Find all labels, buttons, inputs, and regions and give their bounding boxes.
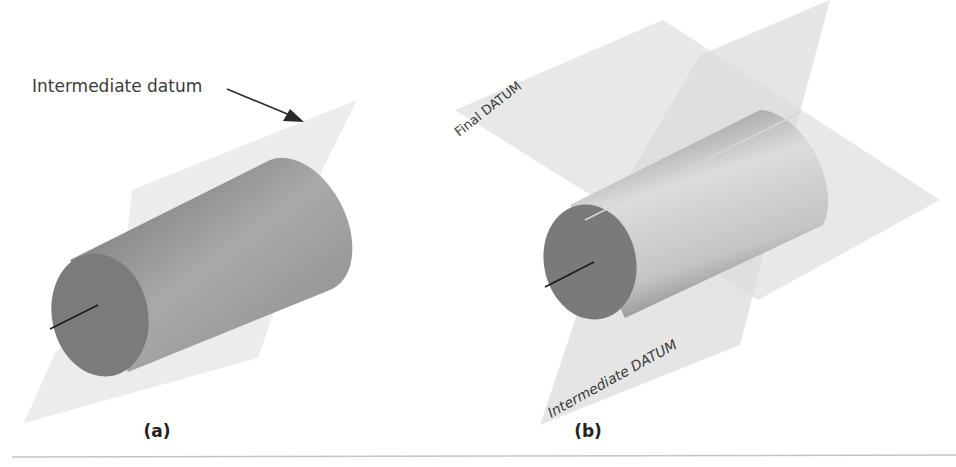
- panel-b: Final DATUM Intermediate DATUM (b): [452, 0, 940, 441]
- caption-a: (a): [143, 421, 170, 441]
- arrow-head-icon: [283, 109, 304, 122]
- annotation-arrow: [227, 89, 297, 118]
- caption-b: (b): [574, 421, 602, 441]
- panel-a: Intermediate datum (a): [24, 76, 357, 441]
- figure-canvas: Intermediate datum (a) Final DATUM Inter…: [0, 0, 956, 467]
- bottom-rule: [12, 455, 956, 457]
- annotation-label: Intermediate datum: [32, 76, 202, 96]
